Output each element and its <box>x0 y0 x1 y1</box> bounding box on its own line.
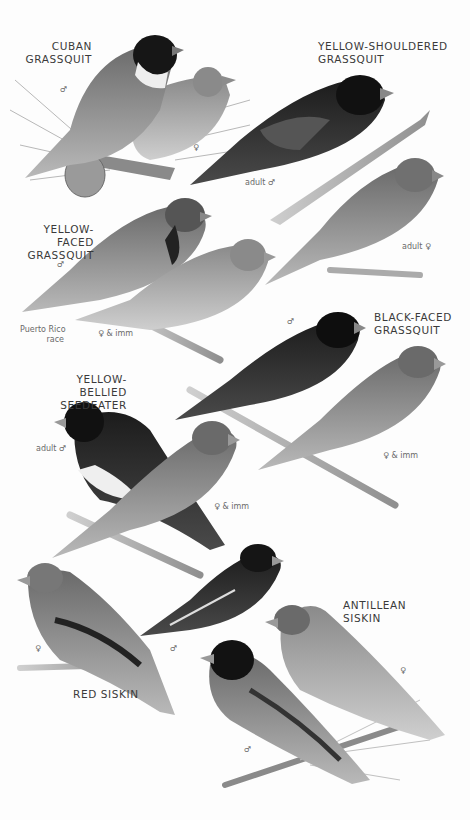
sex-note: ♀ <box>193 143 199 153</box>
species-name-black-faced-grassquit: BLACK-FACED GRASSQUIT <box>374 311 452 337</box>
sex-note: adult ♂ <box>36 444 66 454</box>
sex-note: ♀ & imm <box>383 451 418 461</box>
species-name-line: SEEDEATER <box>35 399 127 412</box>
species-name-line: YELLOW-BELLIED <box>35 373 127 399</box>
species-name-line: BLACK-FACED <box>374 311 452 324</box>
yellow-bellied-seedeater-illustration <box>52 402 240 575</box>
species-name-yellow-shouldered-grassquit: YELLOW-SHOULDERED GRASSQUIT <box>318 40 448 66</box>
species-name-line: ANTILLEAN <box>343 599 406 612</box>
sex-note: ♂ <box>287 317 294 327</box>
field-guide-plate: CUBAN GRASSQUIT ♂ ♀ YELLOW-SHOULDERED GR… <box>0 0 470 820</box>
species-name-line: CUBAN <box>22 40 92 53</box>
species-name-line: YELLOW-SHOULDERED <box>318 40 448 53</box>
sex-note: ♀ & imm <box>98 329 133 339</box>
race-note-line: race <box>20 335 64 345</box>
species-name-line: YELLOW-FACED <box>18 223 94 249</box>
sex-note: ♂ <box>60 85 67 95</box>
antillean-siskin-illustration <box>200 605 445 785</box>
species-name-line: RED SISKIN <box>73 688 139 701</box>
race-note: Puerto Rico race <box>20 325 64 345</box>
species-name-cuban-grassquit: CUBAN GRASSQUIT <box>22 40 92 66</box>
race-note-line: Puerto Rico <box>20 325 64 335</box>
sex-note: ♀ <box>35 644 41 654</box>
species-name-red-siskin: RED SISKIN <box>73 688 139 701</box>
sex-note: ♂ <box>170 644 177 654</box>
sex-note: ♂ <box>244 745 251 755</box>
sex-note: ♀ <box>400 666 406 676</box>
sex-note: adult ♂ <box>245 178 275 188</box>
species-name-line: SISKIN <box>343 612 406 625</box>
species-name-line: GRASSQUIT <box>22 53 92 66</box>
species-name-line: GRASSQUIT <box>318 53 448 66</box>
species-name-line: GRASSQUIT <box>374 324 452 337</box>
sex-note: ♀ & imm <box>214 502 249 512</box>
species-name-antillean-siskin: ANTILLEAN SISKIN <box>343 599 406 625</box>
species-name-yellow-bellied-seedeater: YELLOW-BELLIED SEEDEATER <box>35 373 127 412</box>
species-name-yellow-faced-grassquit: YELLOW-FACED GRASSQUIT <box>18 223 94 262</box>
species-name-line: GRASSQUIT <box>18 249 94 262</box>
sex-note: adult ♀ <box>402 242 431 252</box>
sex-note: ♂ <box>57 260 64 270</box>
